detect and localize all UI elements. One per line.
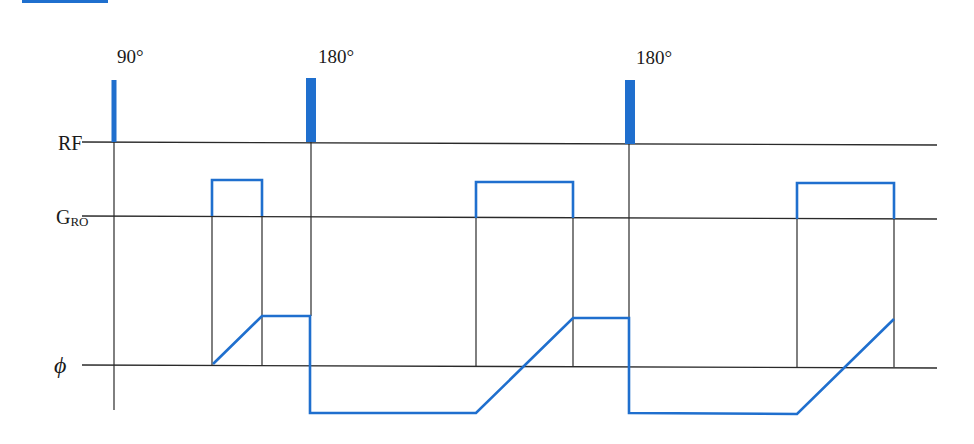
phi-baseline <box>82 365 937 368</box>
readout-gradients <box>212 180 894 219</box>
phase-encoding-waveform <box>213 316 894 414</box>
readout-gradient-lobe-1 <box>212 180 262 216</box>
top-bar <box>22 0 108 3</box>
rf-pulse-labels: 90° 180° 180° <box>117 46 672 68</box>
rf-pulses <box>112 78 636 144</box>
pulse-sequence-diagram: RF GRO ϕ 90° 180° 180° <box>0 0 974 444</box>
rf-180-label-1: 180° <box>318 46 354 67</box>
gro-label-subscript: RO <box>70 214 88 229</box>
phi-row-label: ϕ <box>54 352 66 378</box>
rf-baseline <box>82 142 937 145</box>
rf-pulse-2 <box>306 78 316 142</box>
gro-label-main: G <box>56 206 70 228</box>
gro-baseline <box>82 216 937 219</box>
rf-180-label-2: 180° <box>636 47 672 68</box>
rf-pulse-1 <box>112 80 117 142</box>
rf-90-label: 90° <box>117 46 144 67</box>
readout-gradient-lobe-2 <box>476 182 573 218</box>
readout-gradient-lobe-3 <box>797 183 894 219</box>
rf-pulse-3 <box>625 80 635 144</box>
row-labels: RF GRO ϕ <box>54 132 89 378</box>
rf-row-label: RF <box>58 132 82 154</box>
gro-row-label: GRO <box>56 206 89 229</box>
axis-lines <box>82 142 937 368</box>
